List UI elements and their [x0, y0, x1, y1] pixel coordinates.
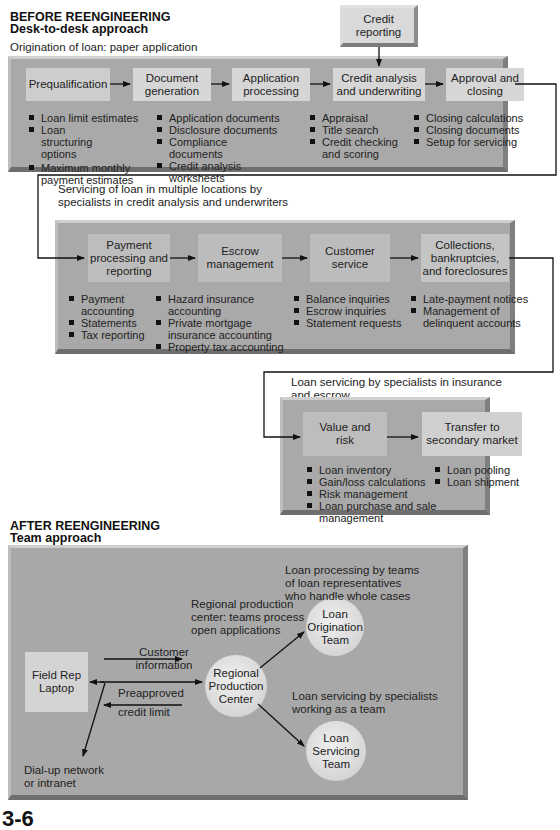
page-number: 3-6: [2, 808, 34, 830]
